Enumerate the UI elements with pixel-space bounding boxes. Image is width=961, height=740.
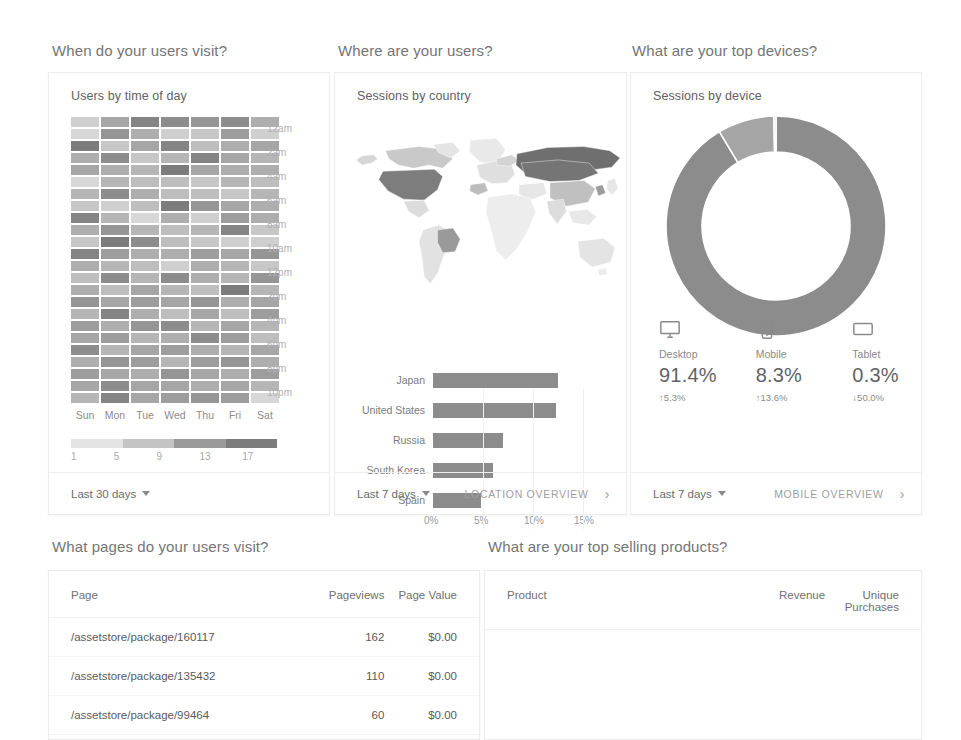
heatmap-cell[interactable]: [71, 177, 99, 187]
mobile-overview-link[interactable]: MOBILE OVERVIEW ›: [774, 487, 905, 501]
heatmap-cell[interactable]: [101, 117, 129, 127]
heatmap-cell[interactable]: [101, 249, 129, 259]
heatmap-cell[interactable]: [221, 345, 249, 355]
heatmap-cell[interactable]: [221, 165, 249, 175]
heatmap-cell[interactable]: [71, 213, 99, 223]
heatmap-cell[interactable]: [221, 297, 249, 307]
heatmap-cell[interactable]: [101, 261, 129, 271]
date-range-selector-country[interactable]: Last 7 days: [357, 488, 430, 500]
device-stat-desktop[interactable]: Desktop91.4%↑5.3%: [645, 318, 742, 403]
heatmap-cell[interactable]: [131, 201, 159, 211]
heatmap-cell[interactable]: [101, 153, 129, 163]
heatmap-cell[interactable]: [71, 249, 99, 259]
heatmap-cell[interactable]: [101, 369, 129, 379]
heatmap-cell[interactable]: [131, 333, 159, 343]
heatmap-cell[interactable]: [191, 333, 219, 343]
heatmap-cell[interactable]: [131, 357, 159, 367]
heatmap-cell[interactable]: [101, 177, 129, 187]
heatmap-cell[interactable]: [101, 201, 129, 211]
heatmap-cell[interactable]: [101, 309, 129, 319]
heatmap-cell[interactable]: [71, 117, 99, 127]
heatmap-cell[interactable]: [221, 117, 249, 127]
bar-fill[interactable]: [433, 373, 558, 388]
heatmap-cell[interactable]: [161, 177, 189, 187]
heatmap-cell[interactable]: [161, 285, 189, 295]
table-row[interactable]: /assetstore/package/160117162$0.00: [49, 618, 479, 657]
table-row[interactable]: /assetstore/package/135432110$0.00: [49, 657, 479, 696]
heatmap-cell[interactable]: [161, 213, 189, 223]
heatmap-cell[interactable]: [161, 141, 189, 151]
device-donut-chart[interactable]: Desktop: 91.4%Mobile: 8.3%Tablet: 0.3%: [631, 111, 921, 345]
heatmap-cell[interactable]: [191, 249, 219, 259]
heatmap-cell[interactable]: [221, 237, 249, 247]
heatmap-cell[interactable]: [191, 129, 219, 139]
heatmap-cell[interactable]: [161, 357, 189, 367]
heatmap-cell[interactable]: [161, 381, 189, 391]
heatmap-cell[interactable]: [101, 141, 129, 151]
heatmap-cell[interactable]: [161, 345, 189, 355]
heatmap-cell[interactable]: [191, 153, 219, 163]
heatmap-cell[interactable]: [161, 273, 189, 283]
heatmap-cell[interactable]: [131, 273, 159, 283]
heatmap-cell[interactable]: [71, 261, 99, 271]
heatmap-cell[interactable]: [191, 261, 219, 271]
heatmap-cell[interactable]: [71, 273, 99, 283]
heatmap-cell[interactable]: [221, 333, 249, 343]
heatmap-cell[interactable]: [101, 273, 129, 283]
heatmap-cell[interactable]: [161, 393, 189, 403]
heatmap-cell[interactable]: [161, 165, 189, 175]
heatmap-cell[interactable]: [131, 393, 159, 403]
heatmap-cell[interactable]: [191, 273, 219, 283]
heatmap-cell[interactable]: [131, 153, 159, 163]
heatmap-cell[interactable]: [161, 261, 189, 271]
heatmap-cell[interactable]: [191, 177, 219, 187]
heatmap-cell[interactable]: [221, 261, 249, 271]
bar-row[interactable]: Japan: [343, 365, 633, 395]
heatmap-cell[interactable]: [191, 165, 219, 175]
heatmap-cell[interactable]: [131, 297, 159, 307]
heatmap-cell[interactable]: [71, 285, 99, 295]
heatmap-cell[interactable]: [191, 297, 219, 307]
heatmap-cell[interactable]: [71, 129, 99, 139]
pages-col-page[interactable]: Page: [49, 571, 281, 618]
table-row[interactable]: /assetstore/package/9946460$0.00: [49, 696, 479, 735]
heatmap-cell[interactable]: [161, 129, 189, 139]
heatmap-cell[interactable]: [101, 357, 129, 367]
heatmap-cell[interactable]: [131, 249, 159, 259]
heatmap-cell[interactable]: [221, 129, 249, 139]
world-map-chart[interactable]: [341, 129, 631, 294]
heatmap-cell[interactable]: [191, 237, 219, 247]
heatmap-cell[interactable]: [131, 369, 159, 379]
location-overview-link[interactable]: LOCATION OVERVIEW ›: [465, 487, 611, 501]
heatmap-cell[interactable]: [131, 345, 159, 355]
heatmap-cell[interactable]: [71, 225, 99, 235]
heatmap-cell[interactable]: [71, 165, 99, 175]
heatmap-cell[interactable]: [101, 345, 129, 355]
heatmap-cell[interactable]: [221, 273, 249, 283]
heatmap-cell[interactable]: [131, 117, 159, 127]
heatmap-cell[interactable]: [191, 213, 219, 223]
heatmap-cell[interactable]: [161, 189, 189, 199]
heatmap-cell[interactable]: [161, 237, 189, 247]
heatmap-cell[interactable]: [131, 381, 159, 391]
heatmap-cell[interactable]: [191, 357, 219, 367]
date-range-selector-time-of-day[interactable]: Last 30 days: [71, 488, 150, 500]
heatmap-cell[interactable]: [131, 261, 159, 271]
heatmap-cell[interactable]: [191, 321, 219, 331]
heatmap-cell[interactable]: [131, 141, 159, 151]
heatmap-cell[interactable]: [221, 285, 249, 295]
heatmap-cell[interactable]: [101, 129, 129, 139]
heatmap-cell[interactable]: [131, 165, 159, 175]
heatmap-cell[interactable]: [101, 285, 129, 295]
date-range-selector-device[interactable]: Last 7 days: [653, 488, 726, 500]
device-stat-tablet[interactable]: Tablet0.3%↓50.0%: [838, 318, 935, 403]
heatmap-cell[interactable]: [71, 201, 99, 211]
heatmap-cell[interactable]: [161, 321, 189, 331]
heatmap-cell[interactable]: [71, 153, 99, 163]
heatmap-cell[interactable]: [131, 237, 159, 247]
heatmap-cell[interactable]: [131, 225, 159, 235]
bar-row[interactable]: Russia: [343, 425, 633, 455]
heatmap-cell[interactable]: [191, 285, 219, 295]
heatmap-cell[interactable]: [101, 165, 129, 175]
bar-row[interactable]: United States: [343, 395, 633, 425]
